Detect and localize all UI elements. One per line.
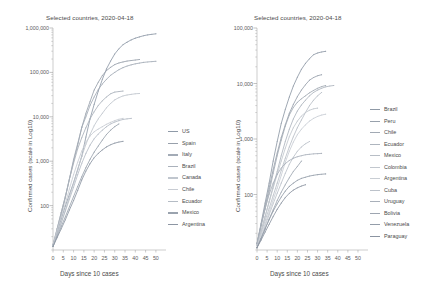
x-tick-label: 50 (349, 255, 367, 261)
legend-swatch-icon (370, 121, 380, 122)
legend-swatch-icon (370, 236, 380, 237)
x-tick-label: 50 (147, 255, 165, 261)
figure-root: Selected countries, 2020-04-18 Confirmed… (0, 0, 445, 294)
legend-swatch-icon (370, 132, 380, 133)
legend-swatch-icon (370, 144, 380, 145)
legend-swatch-icon (370, 109, 380, 110)
legend-swatch-icon (168, 201, 178, 202)
legend-item-chile[interactable]: Chile (370, 127, 409, 139)
legend-swatch-icon (370, 190, 380, 191)
legend-item-argentina[interactable]: Argentina (168, 219, 205, 231)
legend-label: Colombia (384, 165, 407, 170)
legend-item-ecuador[interactable]: Ecuador (370, 139, 409, 151)
y-tick-label: 10,000 (11, 114, 49, 120)
legend-swatch-icon (168, 189, 178, 190)
legend-item-brazil[interactable]: Brazil (168, 161, 205, 173)
legend-swatch-icon (168, 166, 178, 167)
legend-left: USSpainItalyBrazilCanadaChileEcuadorMexi… (168, 126, 205, 230)
legend-item-mexico[interactable]: Mexico (168, 207, 205, 219)
legend-label: Argentina (182, 222, 205, 227)
legend-label: Brazil (384, 107, 397, 112)
legend-swatch-icon (168, 154, 178, 155)
legend-item-brazil[interactable]: Brazil (370, 104, 409, 116)
legend-label: Chile (182, 187, 194, 192)
legend-item-spain[interactable]: Spain (168, 138, 205, 150)
y-tick-label: 1,000,000 (11, 25, 49, 31)
plot-area-right (222, 0, 445, 294)
legend-swatch-icon (370, 201, 380, 202)
legend-label: Chile (384, 130, 396, 135)
y-tick-label: 100 (11, 203, 49, 209)
legend-swatch-icon (370, 213, 380, 214)
legend-right: BrazilPeruChileEcuadorMexicoColombiaArge… (370, 104, 409, 242)
legend-swatch-icon (370, 224, 380, 225)
chart-panel-right: Selected countries, 2020-04-18 Confirmed… (222, 0, 445, 294)
legend-swatch-icon (168, 131, 178, 132)
y-tick-label: 10,000 (215, 81, 253, 87)
y-tick-label: 100,000 (11, 69, 49, 75)
legend-item-ecuador[interactable]: Ecuador (168, 196, 205, 208)
legend-swatch-icon (168, 143, 178, 144)
legend-swatch-icon (168, 224, 178, 225)
legend-label: Paraguay (384, 234, 407, 239)
legend-item-us[interactable]: US (168, 126, 205, 138)
legend-item-peru[interactable]: Peru (370, 116, 409, 128)
legend-label: Venezuela (384, 222, 409, 227)
y-tick-label: 1,000 (11, 158, 49, 164)
legend-item-argentina[interactable]: Argentina (370, 173, 409, 185)
legend-label: Cuba (384, 188, 397, 193)
legend-label: Mexico (384, 153, 401, 158)
legend-label: Argentina (384, 176, 407, 181)
legend-swatch-icon (370, 155, 380, 156)
legend-label: Peru (384, 119, 395, 124)
legend-label: Canada (182, 175, 201, 180)
legend-label: Spain (182, 141, 196, 146)
legend-item-paraguay[interactable]: Paraguay (370, 231, 409, 243)
legend-swatch-icon (168, 177, 178, 178)
legend-item-canada[interactable]: Canada (168, 172, 205, 184)
legend-item-chile[interactable]: Chile (168, 184, 205, 196)
y-tick-label: 100,000 (215, 25, 253, 31)
legend-item-bolivia[interactable]: Bolivia (370, 208, 409, 220)
legend-label: Uruguay (384, 199, 404, 204)
chart-panel-left: Selected countries, 2020-04-18 Confirmed… (0, 0, 222, 294)
legend-item-cuba[interactable]: Cuba (370, 185, 409, 197)
legend-item-venezuela[interactable]: Venezuela (370, 219, 409, 231)
legend-item-italy[interactable]: Italy (168, 149, 205, 161)
legend-swatch-icon (370, 178, 380, 179)
legend-label: Brazil (182, 164, 195, 169)
legend-item-mexico[interactable]: Mexico (370, 150, 409, 162)
legend-item-colombia[interactable]: Colombia (370, 162, 409, 174)
legend-label: Bolivia (384, 211, 400, 216)
y-tick-label: 1,000 (215, 136, 253, 142)
legend-label: Ecuador (384, 142, 404, 147)
legend-label: Ecuador (182, 199, 202, 204)
y-tick-label: 100 (215, 192, 253, 198)
legend-swatch-icon (168, 212, 178, 213)
legend-label: Italy (182, 152, 192, 157)
legend-item-uruguay[interactable]: Uruguay (370, 196, 409, 208)
legend-label: US (182, 129, 190, 134)
legend-swatch-icon (370, 167, 380, 168)
legend-label: Mexico (182, 210, 199, 215)
